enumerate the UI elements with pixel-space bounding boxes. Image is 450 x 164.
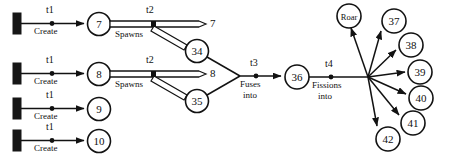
place-37-label: 37 xyxy=(389,15,401,27)
arc-fission-to-place-roar xyxy=(351,28,368,77)
transition-label-t1-row4: t1 xyxy=(46,121,54,132)
passthrough-label-top: 7 xyxy=(210,17,216,29)
place-10-label: 10 xyxy=(94,135,106,147)
transition-label-t1-row2: t1 xyxy=(46,54,54,65)
transition-label-t2-row2: t2 xyxy=(146,54,154,65)
source-bar-3 xyxy=(13,98,21,119)
transition-verb-t3-line2: into xyxy=(243,90,258,100)
transition-label-t2-row1: t2 xyxy=(146,4,154,15)
transition-label-t3: t3 xyxy=(250,57,258,68)
place-8-label: 8 xyxy=(96,68,102,80)
transition-verb-t2-row2: Spawns xyxy=(115,79,143,89)
transition-verb-t3-line1: Fuses xyxy=(240,79,261,89)
arc-fission-to-place41 xyxy=(368,77,399,115)
place-34-label: 34 xyxy=(192,45,204,57)
arc-fission-to-place39 xyxy=(368,72,405,77)
transition-dot-t3 xyxy=(254,74,259,79)
arc-fission-to-place40 xyxy=(368,77,406,94)
arc-t2-row2-to-place35 xyxy=(151,76,187,100)
petri-net-graphic: t1 Create 7 t2 Spawns 7 34 t1 Create 8 t… xyxy=(0,0,450,164)
transition-verb-t2-row1: Spawns xyxy=(115,29,143,39)
source-bar-4 xyxy=(13,130,21,151)
place-9-label: 9 xyxy=(96,103,102,115)
transition-dot-t4 xyxy=(329,75,334,80)
source-bar-1 xyxy=(13,13,21,34)
transition-verb-t4-line1: Fissions xyxy=(312,80,342,90)
arc-t2-row1-to-place34 xyxy=(151,26,187,50)
transition-verb-t4-line2: into xyxy=(318,91,333,101)
arc-fission-to-place42 xyxy=(368,77,377,126)
transition-label-t1-row1: t1 xyxy=(46,4,54,15)
place-roar-label: Roar xyxy=(341,12,358,22)
passthrough-label-bottom: 8 xyxy=(210,67,216,79)
transition-label-t4: t4 xyxy=(325,58,333,69)
source-bar-2 xyxy=(13,63,21,84)
place-7-label: 7 xyxy=(96,18,102,30)
diagram-canvas: t1 Create 7 t2 Spawns 7 34 t1 Create 8 t… xyxy=(0,0,450,164)
place-35-label: 35 xyxy=(192,95,204,107)
place-40-label: 40 xyxy=(416,92,428,104)
transition-label-t1-row3: t1 xyxy=(46,89,54,100)
transition-verb-t1-row4: Create xyxy=(34,143,57,153)
place-38-label: 38 xyxy=(406,39,418,51)
transition-verb-t1-row3: Create xyxy=(34,111,57,121)
place-41-label: 41 xyxy=(408,117,419,129)
place-42-label: 42 xyxy=(383,133,394,145)
transition-verb-t1-row1: Create xyxy=(34,26,57,36)
transition-verb-t1-row2: Create xyxy=(34,76,57,86)
place-39-label: 39 xyxy=(415,66,427,78)
arc-place8-passthrough-8 xyxy=(110,71,206,77)
place-36-label: 36 xyxy=(292,71,304,83)
arc-place7-passthrough-7 xyxy=(110,21,206,27)
